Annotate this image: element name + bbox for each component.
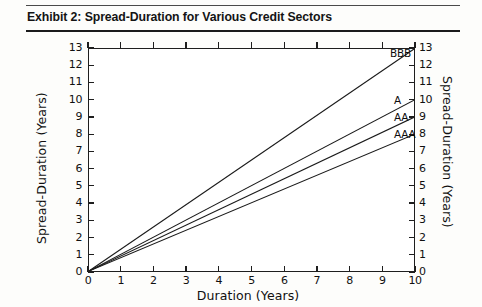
y-tick-6 (409, 168, 415, 169)
y-tick-7 (409, 151, 415, 152)
y-tick-label-left-8: 8 (56, 127, 82, 140)
x-tick-5 (251, 42, 252, 48)
x-tick-2 (153, 266, 154, 272)
y-tick-3 (88, 220, 94, 221)
chart-figure: 012345678910111213 012345678910111213 01… (0, 32, 482, 307)
y-tick-label-right-1: 1 (419, 248, 445, 261)
x-tick-7 (316, 266, 317, 272)
x-tick-4 (218, 42, 219, 48)
y-tick-11 (88, 82, 94, 83)
y-tick-6 (88, 168, 94, 169)
y-tick-10 (88, 99, 94, 100)
y-tick-label-left-9: 9 (56, 110, 82, 123)
page-title: Exhibit 2: Spread-Duration for Various C… (27, 10, 332, 24)
x-tick-0 (87, 266, 88, 272)
x-tick-label-6: 6 (271, 274, 297, 287)
x-tick-label-0: 0 (75, 274, 101, 287)
y-tick-1 (409, 254, 415, 255)
y-tick-label-right-13: 13 (419, 41, 445, 54)
x-tick-label-8: 8 (337, 274, 363, 287)
y-tick-4 (88, 202, 94, 203)
y-tick-1 (88, 254, 94, 255)
x-tick-2 (153, 42, 154, 48)
x-tick-3 (185, 266, 186, 272)
y-tick-0 (88, 271, 94, 272)
x-tick-4 (218, 266, 219, 272)
y-tick-label-left-6: 6 (56, 162, 82, 175)
y-tick-4 (409, 202, 415, 203)
y-tick-2 (409, 237, 415, 238)
y-axis-title-right: Spread-Duration (Years) (440, 76, 455, 228)
x-tick-label-4: 4 (206, 274, 232, 287)
y-tick-5 (88, 185, 94, 186)
y-tick-5 (409, 185, 415, 186)
x-tick-10 (414, 42, 415, 48)
x-tick-7 (316, 42, 317, 48)
x-tick-3 (185, 42, 186, 48)
y-tick-label-left-2: 2 (56, 231, 82, 244)
x-tick-label-10: 10 (402, 274, 428, 287)
y-tick-label-left-4: 4 (56, 196, 82, 209)
y-tick-13 (88, 47, 94, 48)
y-tick-2 (88, 237, 94, 238)
x-tick-8 (349, 266, 350, 272)
y-tick-11 (409, 82, 415, 83)
figure-page: Exhibit 2: Spread-Duration for Various C… (0, 0, 482, 307)
y-tick-10 (409, 99, 415, 100)
y-tick-9 (88, 116, 94, 117)
series-line-AAA (89, 134, 414, 271)
x-tick-10 (414, 266, 415, 272)
y-tick-3 (409, 220, 415, 221)
x-tick-label-7: 7 (304, 274, 330, 287)
series-line-AA (89, 117, 414, 271)
plot-area (88, 48, 415, 272)
x-tick-5 (251, 266, 252, 272)
y-axis-title-left: Spread-Duration (Years) (34, 92, 49, 244)
series-label-AA: AA (394, 111, 408, 123)
x-tick-8 (349, 42, 350, 48)
x-tick-6 (284, 266, 285, 272)
y-tick-label-left-5: 5 (56, 179, 82, 192)
y-tick-label-left-7: 7 (56, 144, 82, 157)
y-tick-label-right-2: 2 (419, 231, 445, 244)
series-label-BBB: BBB (390, 47, 411, 59)
x-tick-9 (382, 266, 383, 272)
series-lines (89, 49, 414, 271)
x-tick-label-1: 1 (108, 274, 134, 287)
y-tick-label-left-10: 10 (56, 93, 82, 106)
x-tick-label-3: 3 (173, 274, 199, 287)
x-tick-0 (87, 42, 88, 48)
y-tick-label-left-3: 3 (56, 213, 82, 226)
x-tick-label-2: 2 (140, 274, 166, 287)
series-label-AAA: AAA (394, 128, 416, 140)
y-tick-8 (88, 134, 94, 135)
x-tick-label-9: 9 (369, 274, 395, 287)
y-tick-12 (88, 65, 94, 66)
series-line-BBB (89, 49, 414, 271)
y-tick-label-left-11: 11 (56, 75, 82, 88)
series-label-A: A (394, 94, 401, 106)
y-tick-label-left-13: 13 (56, 41, 82, 54)
series-line-A (89, 100, 414, 271)
x-tick-1 (120, 42, 121, 48)
x-axis-title: Duration (Years) (0, 288, 482, 303)
y-tick-7 (88, 151, 94, 152)
y-tick-9 (409, 116, 415, 117)
y-tick-12 (409, 65, 415, 66)
header-rule-top (26, 5, 460, 6)
x-tick-6 (284, 42, 285, 48)
y-tick-label-right-12: 12 (419, 58, 445, 71)
x-tick-1 (120, 266, 121, 272)
y-tick-label-left-1: 1 (56, 248, 82, 261)
x-tick-label-5: 5 (239, 274, 265, 287)
x-tick-9 (382, 42, 383, 48)
y-tick-label-left-12: 12 (56, 58, 82, 71)
